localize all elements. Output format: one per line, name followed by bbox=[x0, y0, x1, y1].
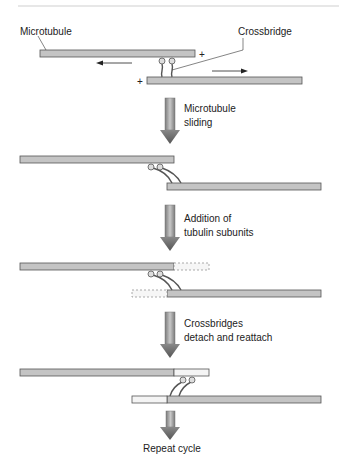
panel-sliding bbox=[20, 156, 321, 190]
crossbridge-pair bbox=[148, 271, 181, 290]
step-1-line-2: sliding bbox=[184, 117, 212, 128]
microtubule-label: Microtubule bbox=[20, 26, 72, 37]
step-3-line-1: Crossbridges bbox=[184, 318, 243, 329]
microtubule-sliding-diagram: Microtubule Crossbridge + + Microtubule … bbox=[0, 0, 339, 470]
new-subunits-top bbox=[174, 369, 209, 376]
microtubule-bottom bbox=[167, 290, 321, 297]
new-subunits-top bbox=[174, 263, 209, 270]
right-direction-arrow bbox=[212, 69, 248, 74]
microtubule-bottom bbox=[167, 396, 321, 403]
microtubule-top bbox=[20, 369, 174, 376]
microtubule-top bbox=[20, 263, 174, 270]
step-2-line-2: tubulin subunits bbox=[184, 227, 254, 238]
repeat-cycle-label: Repeat cycle bbox=[143, 443, 201, 454]
microtubule-top bbox=[40, 50, 195, 57]
step-arrow-2 bbox=[160, 205, 180, 251]
step-3-line-2: detach and reattach bbox=[184, 332, 272, 343]
plus-end-top: + bbox=[199, 49, 205, 60]
microtubule-bottom bbox=[147, 77, 302, 84]
step-arrow-1 bbox=[160, 98, 180, 144]
panel-tubulin-addition bbox=[20, 263, 321, 297]
crossbridge-label: Crossbridge bbox=[238, 26, 292, 37]
panel-initial: Microtubule Crossbridge + + bbox=[20, 26, 302, 87]
panel-reattach bbox=[20, 369, 321, 403]
plus-end-bottom: + bbox=[137, 76, 143, 87]
step-arrow-4 bbox=[160, 411, 180, 440]
left-direction-arrow bbox=[96, 61, 132, 66]
step-2-line-1: Addition of bbox=[184, 213, 231, 224]
new-subunits-bottom bbox=[132, 396, 167, 403]
step-arrow-3 bbox=[160, 312, 180, 358]
crossbridge-pair bbox=[159, 58, 175, 77]
step-1-line-1: Microtubule bbox=[184, 103, 236, 114]
crossbridge-pair bbox=[148, 164, 181, 183]
microtubule-top bbox=[20, 156, 174, 163]
crossbridge-pair bbox=[170, 377, 195, 396]
microtubule-bottom bbox=[167, 183, 321, 190]
new-subunits-bottom bbox=[132, 290, 167, 297]
microtubule-leader bbox=[38, 36, 46, 50]
